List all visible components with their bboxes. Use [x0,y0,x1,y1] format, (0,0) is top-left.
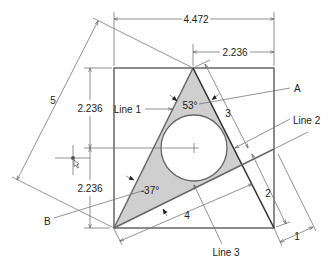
dim-2236-lower-label: 2.236 [77,183,102,194]
dim-3-label: 3 [225,108,231,119]
dim-2236-upper-label: 2.236 [77,103,102,114]
dim-4472-label: 4.472 [183,14,208,25]
dim-1-label: 1 [294,231,300,242]
ext-4-left [114,229,122,245]
technical-drawing: 5 4.472 2.236 2.236 2.236 3 2 1 4 53° -3… [0,0,334,271]
callout-line2: Line 2 [293,115,321,126]
cursor-icon [74,160,79,168]
ext-1-left [274,228,282,246]
origin-point [71,156,75,160]
leader-line2 [235,119,290,148]
ext-3-top [195,60,210,67]
construction-line-top [93,18,193,68]
line-3-extension [274,132,308,149]
callout-line1: Line 1 [114,104,142,115]
dim-5-label: 5 [50,95,56,106]
dim-2-label: 2 [265,188,271,199]
dim-4-label: 4 [184,210,190,221]
leader-a [199,88,290,104]
drawing-canvas: 5 4.472 2.236 2.236 2.236 3 2 1 4 53° -3… [0,0,334,271]
dim-2236-top-label: 2.236 [222,47,247,58]
angle-53-arrow-left [170,95,177,101]
ext-2-bottom [276,222,290,227]
callout-b: B [44,216,51,227]
angle-53-arrow-right [212,94,219,100]
angle-37-arrow-top [126,176,134,180]
dim-5-line [17,21,98,180]
callout-line3: Line 3 [212,247,240,258]
callout-a: A [294,83,301,94]
angle-53-label: 53° [182,100,197,111]
